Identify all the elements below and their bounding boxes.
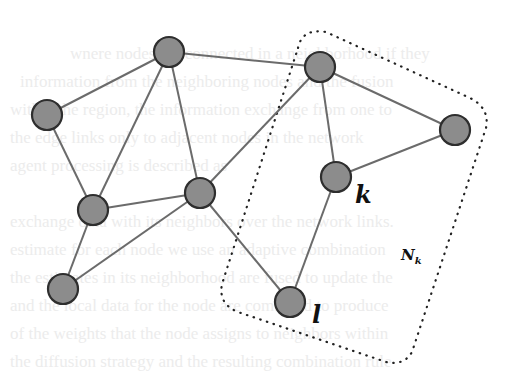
edge-B-G [93,52,169,210]
node-G [78,195,108,225]
edge-C-D [320,67,455,130]
edge-F-G [93,193,200,210]
edge-D-E [336,130,455,177]
edges-group [47,52,455,302]
edge-E-I [290,177,336,302]
node-B [154,37,184,67]
node-A [32,100,62,130]
node-label-l: l [312,300,321,329]
network-graph [0,0,514,381]
edge-B-F [169,52,200,193]
node-k [321,162,351,192]
node-C [305,52,335,82]
edge-F-I [200,193,290,302]
node-H [48,274,78,304]
neighborhood-label-sub: k [415,255,422,266]
edge-C-E [320,67,336,177]
node-D [440,115,470,145]
edge-C-F [200,67,320,193]
node-label-k: k [355,180,372,209]
edge-B-C [169,52,320,67]
neighborhood-label: Nk [401,246,422,266]
neighborhood-region [221,31,486,363]
nodes-group [32,37,470,317]
node-F [185,178,215,208]
node-l [275,287,305,317]
edge-A-B [47,52,169,115]
neighborhood-label-main: N [401,246,415,264]
